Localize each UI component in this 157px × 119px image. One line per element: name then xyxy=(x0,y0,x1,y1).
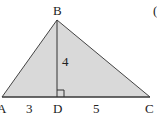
edge-mark: ( xyxy=(153,3,157,18)
vertex-label-c: C xyxy=(145,101,154,116)
vertex-label-a: A xyxy=(0,101,7,116)
segment-label-ad: 3 xyxy=(26,101,33,116)
triangle-diagram: B A 3 D 5 C 4 ( xyxy=(0,0,157,119)
segment-label-bd: 4 xyxy=(62,54,69,69)
vertex-label-d: D xyxy=(53,101,62,116)
vertex-label-b: B xyxy=(53,3,62,18)
triangle-abc xyxy=(2,20,150,97)
segment-label-dc: 5 xyxy=(93,101,100,116)
